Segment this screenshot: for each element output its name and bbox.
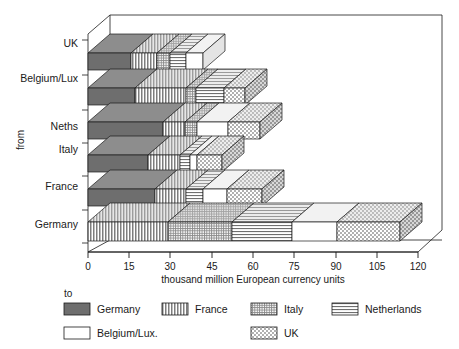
x-tick-45: 45	[206, 261, 218, 272]
legend-label-netherlands: Netherlands	[365, 303, 422, 315]
legend-label-italy: Italy	[284, 303, 304, 315]
bar-uk	[88, 34, 225, 70]
segment-de-belgium-front	[292, 222, 337, 241]
segment-de-neths-front	[232, 222, 292, 241]
x-tick-90: 90	[330, 261, 342, 272]
category-label-germany: Germany	[35, 218, 79, 230]
segment-uk-france-front	[131, 53, 157, 70]
legend-swatch-uk	[251, 327, 277, 339]
segment-it-belgium-front	[190, 155, 197, 172]
bar-chart: UK Belgium/Lux Neths Italy France German…	[0, 0, 459, 349]
legend-item-france[interactable]: France	[162, 303, 228, 315]
segment-bl-uk-front	[224, 88, 245, 105]
segment-it-neths-front	[180, 155, 190, 172]
bar-neths	[88, 103, 282, 139]
segment-bl-neths-front	[196, 88, 224, 105]
legend-swatch-belgium-lux	[64, 327, 90, 339]
legend-swatch-italy	[251, 303, 277, 315]
chart-svg: UK Belgium/Lux Neths Italy France German…	[0, 0, 459, 349]
segment-bl-germany-front	[88, 88, 135, 105]
segment-uk-belgium-front	[186, 53, 203, 70]
segment-it-france-front	[148, 155, 180, 172]
legend-label-uk: UK	[284, 327, 299, 339]
segment-uk-italy-front	[157, 53, 170, 70]
category-label-france: France	[45, 180, 78, 192]
legend-title: to	[64, 288, 73, 299]
bar-france	[88, 170, 284, 206]
segment-it-germany-front	[88, 155, 148, 172]
segment-de-italy-front	[168, 222, 232, 241]
bar-italy	[88, 136, 244, 172]
x-tick-0: 0	[85, 261, 91, 272]
segment-bl-italy-front	[186, 88, 196, 105]
x-tick-30: 30	[164, 261, 176, 272]
category-label-uk: UK	[63, 37, 78, 49]
x-axis-title: thousand million European currency units	[161, 274, 344, 285]
legend-label-germany: Germany	[97, 303, 141, 315]
segment-uk-neths-front	[170, 53, 186, 70]
x-tick-75: 75	[288, 261, 300, 272]
x-tick-120: 120	[410, 261, 427, 272]
legend-item-netherlands[interactable]: Netherlands	[332, 303, 422, 315]
y-axis-title: from	[15, 130, 26, 150]
category-label-italy: Italy	[59, 143, 79, 155]
legend-label-belgium-lux: Belgium/Lux.	[97, 327, 158, 339]
x-tick-60: 60	[247, 261, 259, 272]
legend-swatch-netherlands	[332, 303, 358, 315]
bar-belgium-lux	[88, 69, 267, 105]
segment-de-uk-front	[337, 222, 400, 241]
bar-germany	[88, 203, 422, 241]
segment-uk-germany-front	[88, 53, 131, 70]
legend-item-uk[interactable]: UK	[251, 327, 299, 339]
x-tick-15: 15	[123, 261, 135, 272]
segment-de-france-front	[88, 222, 168, 241]
legend-swatch-germany	[64, 303, 90, 315]
legend-label-france: France	[195, 303, 228, 315]
category-label-belgium-lux: Belgium/Lux	[20, 72, 79, 84]
legend-item-germany[interactable]: Germany	[64, 303, 141, 315]
legend-item-belgium-lux[interactable]: Belgium/Lux.	[64, 327, 158, 339]
x-tick-105: 105	[369, 261, 386, 272]
segment-it-uk-front	[197, 155, 222, 172]
segment-bl-france-front	[135, 88, 186, 105]
legend-swatch-france	[162, 303, 188, 315]
category-label-neths: Neths	[51, 120, 78, 132]
